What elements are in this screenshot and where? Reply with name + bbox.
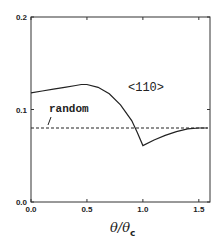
line-chart: 0.00.51.01.50.00.10.2 <110> random θ/θc — [0, 0, 222, 248]
y-tick-label: 0.2 — [16, 13, 28, 22]
x-tick-label: 1.5 — [193, 205, 205, 214]
x-tick-label: 1.0 — [137, 205, 149, 214]
x-tick-label: 0.0 — [25, 205, 37, 214]
axis-ticks: 0.00.51.01.50.00.10.2 — [16, 13, 210, 214]
y-tick-label: 0.1 — [16, 106, 28, 115]
x-tick-label: 0.5 — [81, 205, 93, 214]
x-axis-label: θ/θc — [110, 220, 135, 238]
data-series — [31, 85, 208, 146]
random-pointer — [48, 117, 51, 125]
series-110 — [31, 85, 208, 146]
y-tick-label: 0.0 — [16, 198, 28, 207]
annotation-110: <110> — [128, 81, 164, 95]
annotation-random: random — [49, 103, 89, 115]
